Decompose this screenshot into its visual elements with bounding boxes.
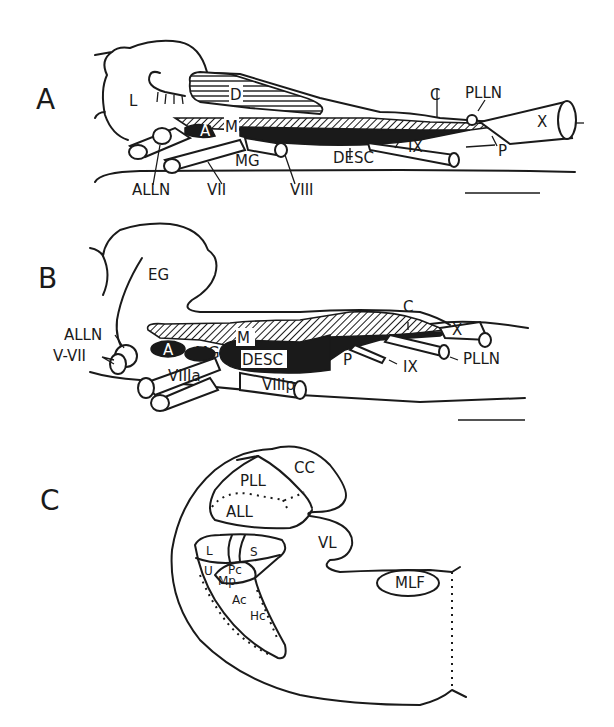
eg-left-edge <box>103 256 108 295</box>
label-a: A <box>200 122 211 140</box>
label-v-vii: V-VII <box>53 347 86 365</box>
label-m: M <box>225 118 238 136</box>
label-vl: VL <box>318 534 337 552</box>
label-desc: DESC <box>333 149 374 167</box>
label-all: ALL <box>226 503 254 521</box>
label-ix-b: IX <box>403 358 418 376</box>
nerve-ix-b <box>350 345 385 363</box>
nerve-plln-end-b <box>439 345 449 359</box>
label-x-b: X <box>452 321 462 339</box>
nerve-alln-end-2 <box>153 128 171 144</box>
nerve-alln-end <box>129 145 147 159</box>
label-mg: MG <box>235 152 260 170</box>
panel-b-label: B <box>38 262 57 295</box>
label-pll: PLL <box>240 472 266 490</box>
label-viii: VIII <box>290 181 314 199</box>
label-viiia: VIIIa <box>168 367 201 385</box>
l-s-divider <box>228 535 245 562</box>
panel-c-label: C <box>40 484 60 517</box>
nerve-x-end-b <box>479 333 491 347</box>
nerve-viiip-end-b <box>294 381 306 399</box>
eg-inner-line <box>117 258 142 352</box>
label-mg-b: MG <box>195 344 220 362</box>
label-alln-b: ALLN <box>64 326 102 344</box>
label-c-b: C <box>403 298 413 316</box>
panel-b: B EG ALLN V-V <box>38 224 528 420</box>
label-m-b: M <box>237 329 250 347</box>
label-l-c: L <box>206 544 213 558</box>
label-ac: Ac <box>232 593 247 607</box>
label-viiip: VIIIp <box>262 376 295 394</box>
nerve-v-vii-end-b <box>110 354 126 374</box>
panel-a: A L D A <box>36 41 584 199</box>
label-desc-b: DESC <box>242 351 283 369</box>
nerve-p-line <box>466 145 495 147</box>
label-plln-b: PLLN <box>463 350 500 368</box>
label-eg: EG <box>148 266 169 284</box>
figure-canvas: A L D A <box>0 0 614 727</box>
label-a-b: A <box>163 341 174 359</box>
panel-c: C CC PLL ALL VL MLF L S U Pc Mp Ac Hc <box>40 447 466 705</box>
label-mlf: MLF <box>395 574 425 592</box>
label-u: U <box>204 564 213 578</box>
eg-outline <box>90 224 450 325</box>
nerve-plln-end <box>467 115 477 125</box>
lobe-inner <box>149 72 185 96</box>
label-mp: Mp <box>218 574 236 588</box>
label-p-b: P <box>343 351 352 369</box>
nerve-ix-end <box>449 153 459 167</box>
nerve-viii-end <box>275 143 287 157</box>
label-s: S <box>250 545 258 559</box>
label-d: D <box>230 86 242 104</box>
label-alln: ALLN <box>132 181 170 199</box>
nerve-vii-end <box>164 159 180 173</box>
label-x: X <box>537 113 547 131</box>
label-ix: IX <box>408 138 423 156</box>
label-hc: Hc <box>250 609 266 623</box>
label-p: P <box>498 142 507 160</box>
panel-a-label: A <box>36 83 55 116</box>
nerve-viiia-2-end-b <box>151 395 169 411</box>
label-l: L <box>129 92 138 110</box>
nerve-viiia-end-b <box>138 378 154 398</box>
label-c: C <box>430 86 440 104</box>
label-vii: VII <box>207 181 226 199</box>
label-cc: CC <box>294 459 315 477</box>
label-plln: PLLN <box>465 84 502 102</box>
nerve-x-end <box>558 101 576 139</box>
